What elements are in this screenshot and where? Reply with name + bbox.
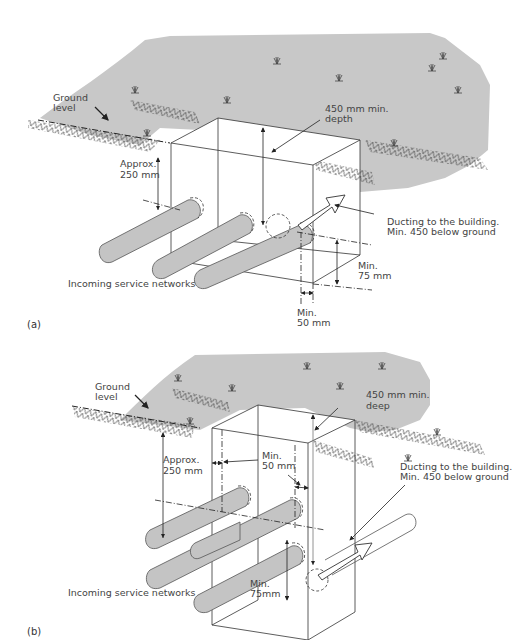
label-approx: Approx. — [163, 454, 199, 465]
label-approx: Approx. — [120, 158, 156, 169]
grass-icon — [404, 454, 412, 461]
grass-icon — [433, 428, 441, 435]
label-incoming: Incoming service networks — [68, 278, 195, 289]
panel-b: Ground level 450 mm min. deep Approx. 25… — [27, 352, 512, 640]
label-depth: depth — [325, 113, 353, 124]
label-min-75: 75 mm — [358, 270, 392, 281]
label-depth: deep — [366, 400, 390, 411]
label-ducting: Min. 450 below ground — [387, 226, 496, 237]
label-min-50: 50 mm — [297, 317, 331, 328]
hatch-right — [355, 420, 485, 455]
label-approx: 250 mm — [120, 169, 160, 180]
label-ground-level: level — [53, 102, 76, 113]
label-ducting: Min. 450 below ground — [400, 471, 509, 482]
service-pipes — [99, 200, 312, 289]
hatch-right2 — [313, 440, 374, 468]
panel-label-b: (b) — [27, 626, 41, 637]
panel-label-a: (a) — [27, 319, 41, 330]
duct-arrow — [298, 195, 345, 230]
label-min-75: 75mm — [250, 588, 281, 599]
label-ground-level: level — [95, 391, 118, 402]
diagram-canvas: Ground level 450 mm min. depth Approx. 2… — [0, 0, 516, 640]
panel-a: Ground level 450 mm min. depth Approx. 2… — [27, 33, 499, 330]
label-min-50: 50 mm — [262, 460, 296, 471]
label-incoming: Incoming service networks — [68, 587, 195, 598]
label-approx: 250 mm — [163, 465, 203, 476]
ground-surface — [40, 33, 490, 192]
label-depth: 450 mm min. — [366, 389, 430, 400]
